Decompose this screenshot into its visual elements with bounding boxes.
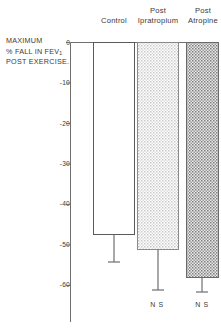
bar-post-ipratropium — [138, 43, 179, 291]
y-axis — [66, 43, 71, 323]
chart-figure: MAXIMUM % FALL IN FEV1 POST EXERCISE. Co… — [0, 0, 221, 331]
bar-post-atropine — [187, 43, 219, 293]
chart-plot-area — [0, 0, 221, 331]
bar-control — [94, 43, 135, 263]
